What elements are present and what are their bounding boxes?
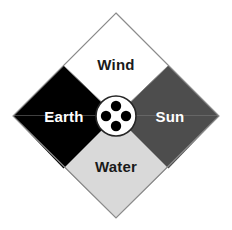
diamond-diagram-canvas: Wind Earth Sun Water: [0, 0, 232, 230]
hub-dot-top-icon: [111, 101, 121, 111]
hub-dot-bottom-icon: [111, 121, 121, 131]
quadrant-label-wind: Wind: [97, 56, 134, 73]
quadrant-label-water: Water: [95, 158, 137, 175]
hub-dot-left-icon: [101, 111, 111, 121]
elements-diamond-diagram: Wind Earth Sun Water: [0, 0, 232, 230]
hub-dot-right-icon: [121, 111, 131, 121]
quadrant-label-earth: Earth: [44, 108, 83, 125]
quadrant-label-sun: Sun: [156, 108, 185, 125]
